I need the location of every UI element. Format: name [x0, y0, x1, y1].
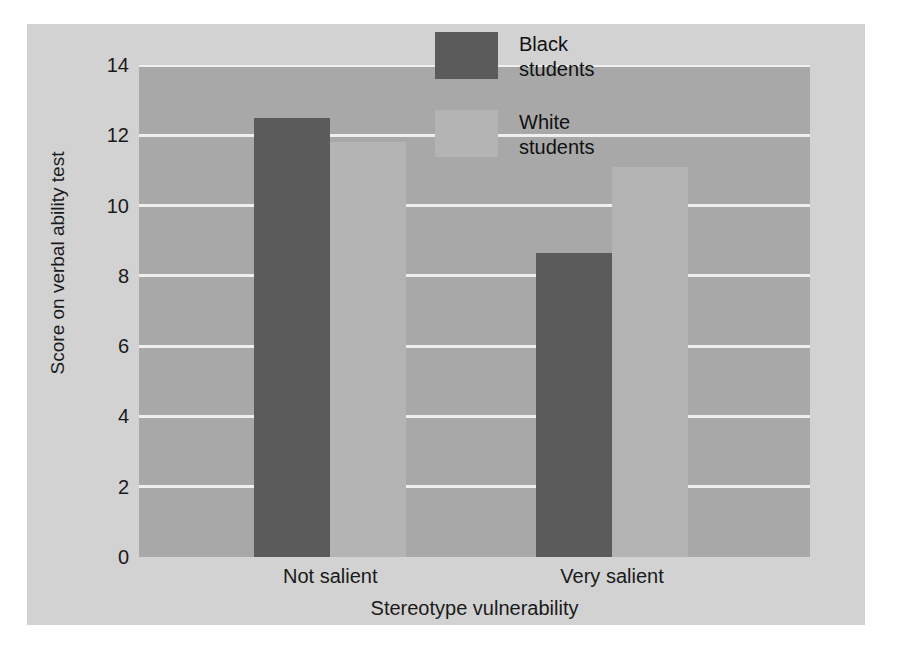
gridline: [139, 485, 810, 488]
y-axis-tick-label: 6: [69, 336, 129, 356]
bar: [612, 167, 688, 557]
bar: [330, 142, 406, 557]
x-axis-tick-label: Very salient: [560, 565, 663, 588]
x-axis-tick-label: Not salient: [283, 565, 378, 588]
gridline: [139, 274, 810, 277]
legend-swatch: [435, 110, 498, 157]
legend-swatch: [435, 32, 498, 79]
y-axis-tick-label: 10: [69, 196, 129, 216]
bar: [536, 253, 612, 557]
y-axis-tick-label: 4: [69, 406, 129, 426]
gridline: [139, 345, 810, 348]
bar: [254, 118, 330, 557]
gridline: [139, 415, 810, 418]
y-axis-tick-label: 12: [69, 125, 129, 145]
x-axis-title: Stereotype vulnerability: [139, 597, 810, 620]
gridline: [139, 204, 810, 207]
chart-figure: Score on verbal ability test 02468101214…: [27, 24, 865, 625]
legend-label: Black students: [519, 32, 595, 82]
legend-label: White students: [519, 110, 595, 160]
y-axis-tick-label: 0: [69, 547, 129, 567]
x-axis-tick-labels: Not salientVery salient: [139, 565, 810, 595]
legend-entry: Black students: [435, 32, 595, 82]
legend-entry: White students: [435, 110, 595, 160]
y-axis-tick-label: 14: [69, 55, 129, 75]
y-axis-tick-label: 8: [69, 266, 129, 286]
y-axis-tick-label: 2: [69, 477, 129, 497]
y-axis-tick-labels: 02468101214: [57, 65, 129, 557]
